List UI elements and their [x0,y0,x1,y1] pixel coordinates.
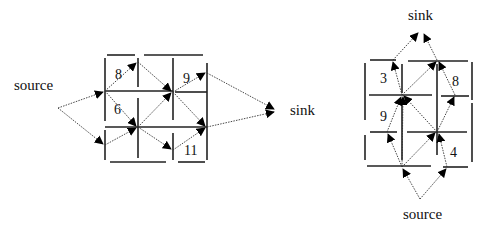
left-weight-8: 8 [115,67,122,82]
flow-network-figure: source sink 8 6 9 11 [0,0,494,230]
right-source-label: source [403,206,442,222]
left-weight-9: 9 [183,71,190,86]
left-weight-11: 11 [184,143,197,158]
right-weight-8: 8 [452,74,459,89]
right-weight-4: 4 [450,145,457,160]
left-grid-network: source sink 8 6 9 11 [14,55,316,162]
left-sink-label: sink [290,102,316,118]
left-weight-6: 6 [114,102,121,117]
right-weight-9: 9 [380,109,387,124]
right-sink-label: sink [408,7,434,23]
right-grid-network: sink source 3 9 8 4 [365,7,472,222]
left-flow-edges [58,62,274,150]
right-weight-3: 3 [380,71,387,86]
right-flow-edges [387,33,455,199]
left-source-label: source [14,77,53,93]
